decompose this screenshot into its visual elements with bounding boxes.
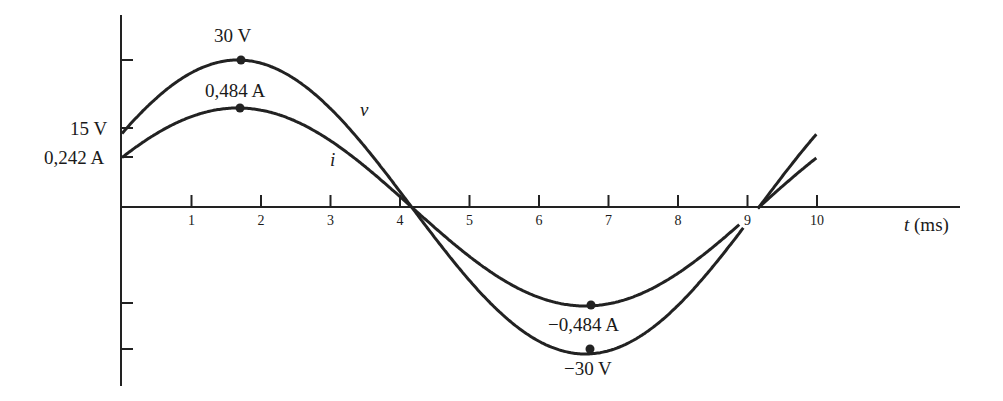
y-ticks — [121, 60, 133, 349]
x-tick-label: 1 — [188, 214, 195, 228]
i-peak-label: 0,484 A — [205, 81, 265, 100]
x-tick-label: 7 — [605, 214, 612, 228]
v-trough-marker — [586, 345, 595, 354]
v-peak-marker — [237, 56, 246, 65]
current-curve-continued — [758, 158, 816, 208]
x-tick-label: 3 — [327, 214, 334, 228]
x-tick-label: 4 — [397, 214, 404, 228]
i-trough-label: −0,484 A — [548, 315, 619, 334]
curve-i-label: i — [330, 150, 335, 169]
x-tick-label: 9 — [744, 214, 751, 228]
x-tick-label: 8 — [675, 214, 682, 228]
x-tick-label: 2 — [258, 214, 265, 228]
x-tick-label: 5 — [466, 214, 473, 228]
x-tick-label: 10 — [810, 214, 824, 228]
x-axis-title: t (ms) — [904, 215, 949, 234]
y-i-label: 0,242 A — [44, 148, 104, 167]
waveform-chart — [0, 0, 1003, 401]
i-peak-marker — [236, 104, 245, 113]
y-v-label: 15 V — [70, 119, 107, 138]
curve-v-label: v — [360, 100, 368, 119]
v-trough-label: −30 V — [564, 359, 612, 378]
x-tick-label: 6 — [536, 214, 543, 228]
x-axis-unit: (ms) — [914, 214, 949, 235]
x-axis-variable: t — [904, 214, 909, 235]
peak-markers — [236, 56, 596, 354]
x-ticks — [192, 195, 818, 207]
i-trough-marker — [587, 301, 596, 310]
v-peak-label: 30 V — [214, 26, 251, 45]
voltage-curve-continued — [758, 134, 816, 208]
